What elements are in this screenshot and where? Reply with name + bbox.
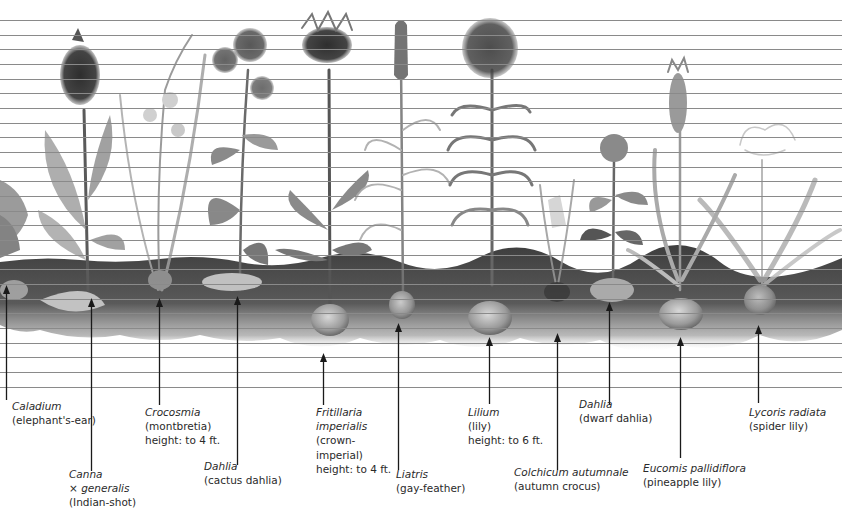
scientific-name: Liatris (396, 467, 465, 481)
scientific-name: Dahlia (204, 459, 282, 473)
label-lilium: Lilium(lily)height: to 6 ft. (468, 405, 543, 448)
soil-band (0, 245, 842, 351)
crocosmia-plant (120, 35, 205, 290)
scientific-name: Crocosmia (145, 405, 220, 419)
common-name: (gay-feather) (396, 481, 465, 495)
scientific-name: Colchicum autumnale (514, 465, 629, 479)
label-caladium: Caladium(elephant's-ear) (12, 399, 96, 427)
scientific-name: Eucomis pallidiflora (643, 461, 746, 475)
scientific-name-cont: × generalis (69, 481, 136, 495)
common-name-cont: imperial) (316, 448, 391, 462)
height-note: height: to 4 ft. (145, 433, 220, 447)
scientific-name: Lilium (468, 405, 543, 419)
scientific-name: Dahlia (579, 397, 652, 411)
label-dahlia-dwarf: Dahlia(dwarf dahlia) (579, 397, 652, 425)
common-name: (cactus dahlia) (204, 473, 282, 487)
scientific-name: Fritillaria (316, 405, 391, 419)
label-colchicum: Colchicum autumnale(autumn crocus) (514, 465, 629, 493)
height-note: height: to 4 ft. (316, 462, 391, 476)
label-dahlia-cactus: Dahlia(cactus dahlia) (204, 459, 282, 487)
common-name: (Indian-shot) (69, 495, 136, 509)
common-name: (spider lily) (749, 419, 826, 433)
common-name: (montbretia) (145, 419, 220, 433)
common-name: (crown- (316, 433, 391, 447)
label-canna: Canna× generalis(Indian-shot) (69, 467, 136, 510)
label-eucomis: Eucomis pallidiflora(pineapple lily) (643, 461, 746, 489)
dahlia-cactus-plant (202, 28, 278, 291)
label-crocosmia: Crocosmia(montbretia)height: to 4 ft. (145, 405, 220, 448)
common-name: (pineapple lily) (643, 475, 746, 489)
height-note: height: to 6 ft. (468, 433, 543, 447)
label-liatris: Liatris(gay-feather) (396, 467, 465, 495)
label-fritillaria: Fritillariaimperialis(crown-imperial)hei… (316, 405, 391, 476)
scientific-name: Canna (69, 467, 136, 481)
bulb-illustration: Caladium(elephant's-ear)Canna× generalis… (0, 0, 842, 523)
scientific-name: Caladium (12, 399, 96, 413)
label-lycoris: Lycoris radiata(spider lily) (749, 405, 826, 433)
scientific-name-cont: imperialis (316, 419, 391, 433)
common-name: (elephant's-ear) (12, 413, 96, 427)
common-name: (dwarf dahlia) (579, 411, 652, 425)
common-name: (lily) (468, 419, 543, 433)
common-name: (autumn crocus) (514, 479, 629, 493)
illustration-canvas (0, 0, 842, 523)
scientific-name: Lycoris radiata (749, 405, 826, 419)
